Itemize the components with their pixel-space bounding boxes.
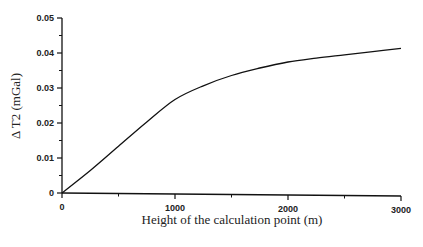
- y-tick-label: 0.02: [36, 118, 54, 128]
- x-axis-title: Height of the calculation point (m): [142, 212, 323, 227]
- y-tick-label: 0.05: [36, 13, 54, 23]
- y-tick-label: 0: [49, 188, 54, 198]
- y-axis-title: Δ T2 (mGal): [8, 73, 23, 139]
- y-tick-label: 0.03: [36, 83, 54, 93]
- chart: 00.010.020.030.040.05 0100020003000 Heig…: [0, 0, 423, 247]
- y-tick-label: 0.04: [36, 48, 54, 58]
- y-axis: 00.010.020.030.040.05: [36, 13, 62, 198]
- data-line: [62, 48, 401, 193]
- x-tick-label: 3000: [391, 205, 411, 215]
- x-tick-label: 0: [59, 202, 64, 212]
- y-tick-label: 0.01: [36, 153, 54, 163]
